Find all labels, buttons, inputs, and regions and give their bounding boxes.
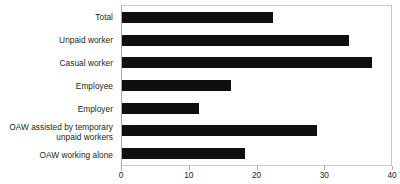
x-tick-label: 30 — [320, 170, 329, 181]
bar-oaw-alone — [122, 148, 245, 159]
bars-container — [122, 6, 391, 165]
bar-row — [122, 120, 391, 143]
bar-oaw-assisted — [122, 125, 317, 136]
category-label-total: Total — [0, 5, 117, 28]
category-label-oaw-alone: OAW working alone — [0, 143, 117, 166]
bar-row — [122, 51, 391, 74]
bar-row — [122, 142, 391, 165]
bar-row — [122, 97, 391, 120]
bar-employer — [122, 103, 199, 114]
bar-row — [122, 29, 391, 52]
bar-employee — [122, 80, 231, 91]
bar-total — [122, 12, 273, 23]
x-tick-label: 20 — [252, 170, 261, 181]
bar-row — [122, 6, 391, 29]
bar-casual-worker — [122, 57, 372, 68]
x-tick-label: 10 — [184, 170, 193, 181]
x-tick-label: 40 — [387, 170, 396, 181]
bar-chart: Total Unpaid worker Casual worker Employ… — [0, 0, 400, 184]
category-label-unpaid-worker: Unpaid worker — [0, 28, 117, 51]
category-label-casual-worker: Casual worker — [0, 51, 117, 74]
category-axis-labels: Total Unpaid worker Casual worker Employ… — [0, 5, 117, 166]
bar-row — [122, 74, 391, 97]
x-axis-tick-labels: 010203040 — [0, 170, 400, 184]
category-label-employer: Employer — [0, 97, 117, 120]
category-label-oaw-assisted: OAW assisted by temporary unpaid workers — [0, 120, 117, 143]
x-tick-label: 0 — [119, 170, 124, 181]
plot-area — [121, 5, 392, 166]
bar-unpaid-worker — [122, 35, 349, 46]
category-label-employee: Employee — [0, 74, 117, 97]
